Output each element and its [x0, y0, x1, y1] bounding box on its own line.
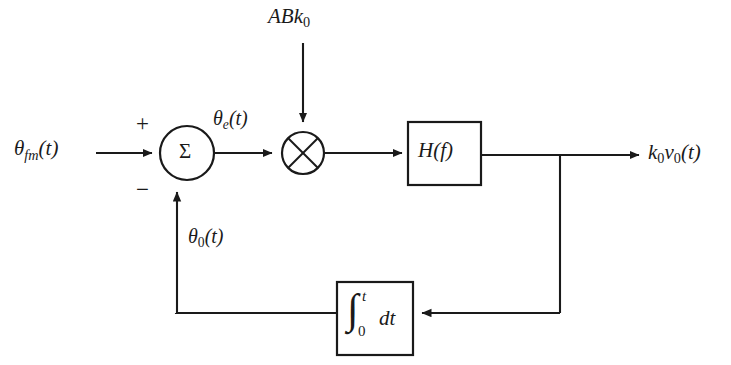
output-k-symbol: k	[648, 140, 657, 164]
integral-stack: ∫ t 0 dt	[345, 292, 371, 340]
feedback-signal-label: θ0(t)	[188, 226, 224, 250]
integral-sign: ∫	[347, 288, 359, 330]
integral-differential: dt	[379, 308, 395, 329]
output-signal-label: k0v0(t)	[648, 142, 701, 166]
error-theta-symbol: θ	[213, 107, 223, 129]
gain-input-subscript: 0	[303, 14, 310, 30]
feedback-theta-symbol: θ	[188, 225, 198, 247]
filter-block-label: H(f)	[418, 140, 453, 161]
input-theta-symbol: θ	[14, 136, 24, 160]
feedback-theta-subscript: 0	[198, 235, 205, 250]
summing-junction-symbol: Σ	[179, 141, 191, 162]
output-v-subscript: 0	[674, 150, 681, 166]
input-theta-argument: (t)	[39, 136, 59, 160]
output-v-symbol: v	[664, 140, 673, 164]
block-diagram: θfm(t) + − Σ θe(t) ABk0 H(f) k0v0(t) θ0(…	[0, 0, 731, 365]
integrator-block-label: ∫ t 0 dt	[345, 292, 371, 340]
error-signal-label: θe(t)	[213, 108, 248, 132]
sum-minus-sign: −	[136, 178, 149, 201]
error-theta-argument: (t)	[229, 107, 248, 129]
gain-input-label: ABk0	[268, 6, 310, 30]
input-theta-subscript: fm	[24, 147, 38, 163]
integral-lower-limit: 0	[358, 324, 366, 339]
feedback-theta-argument: (t)	[205, 225, 224, 247]
input-signal-label: θfm(t)	[14, 138, 58, 162]
sum-plus-sign: +	[136, 112, 149, 135]
output-argument: (t)	[681, 140, 701, 164]
gain-input-base: ABk	[268, 4, 303, 28]
integral-upper-limit: t	[362, 289, 366, 304]
